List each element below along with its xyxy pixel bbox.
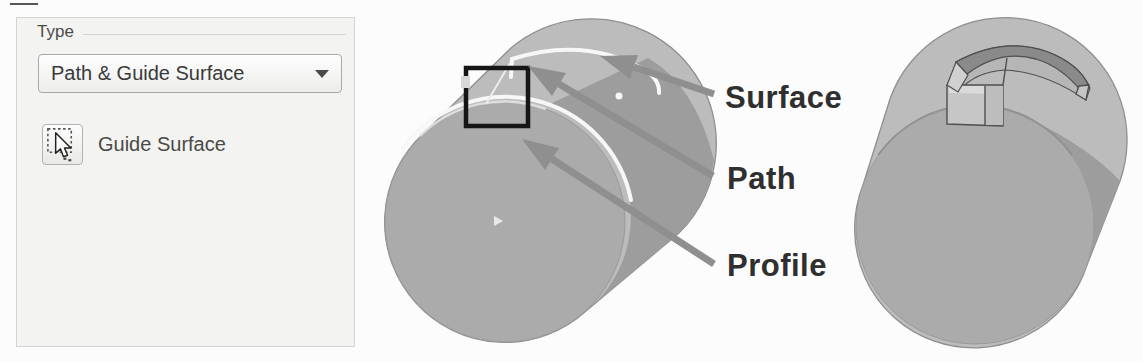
sweep-illustration: Surface Path Profile bbox=[0, 0, 1143, 362]
path-callout-label: Path bbox=[727, 161, 796, 196]
screenshot-canvas: Type Path & Guide Surface Guide Surface bbox=[0, 0, 1143, 362]
guide-surface-curve-end bbox=[616, 93, 623, 100]
result-front-face bbox=[856, 106, 1094, 344]
profile-callout-label: Profile bbox=[727, 248, 827, 283]
groove-notch-endwall bbox=[985, 86, 1003, 125]
cylinder-result-illustration bbox=[855, 18, 1127, 348]
cylinder-front-face bbox=[385, 102, 625, 342]
surface-callout-label: Surface bbox=[725, 80, 842, 115]
cylinder-before-illustration bbox=[385, 19, 717, 343]
profile-notch bbox=[461, 76, 470, 88]
